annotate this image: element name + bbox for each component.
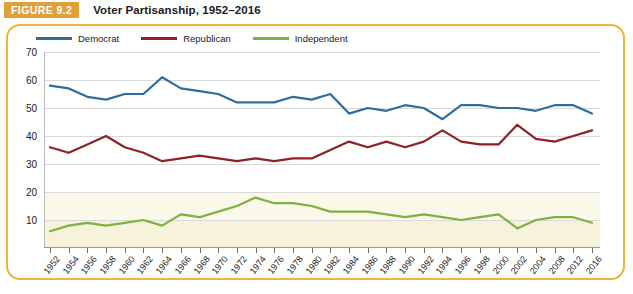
- x-tick-label: 1984: [341, 254, 361, 276]
- x-tick-label: 1996: [453, 254, 473, 276]
- x-tick: [480, 248, 481, 253]
- chart-legend: DemocratRepublicanIndependent: [36, 31, 370, 45]
- figure-number-badge: FIGURE 9.2: [4, 2, 79, 19]
- x-tick-label: 1962: [135, 254, 155, 276]
- legend-swatch-icon: [36, 37, 72, 40]
- x-tick: [218, 248, 219, 253]
- series-line-republican: [50, 125, 592, 161]
- legend-item-independent: Independent: [253, 33, 348, 44]
- x-tick: [592, 248, 593, 253]
- x-tick: [237, 248, 238, 253]
- x-tick-label: 1998: [472, 254, 492, 276]
- x-tick-label: 2000: [490, 254, 510, 276]
- x-tick: [162, 248, 163, 253]
- series-lines: [44, 52, 600, 248]
- x-tick: [424, 248, 425, 253]
- x-tick-label: 1958: [98, 254, 118, 276]
- x-tick-label: 1980: [303, 254, 323, 276]
- x-tick-label: 1964: [154, 254, 174, 276]
- y-tick-label: 60: [26, 75, 37, 86]
- x-tick-label: 2002: [509, 254, 529, 276]
- legend-item-republican: Republican: [141, 33, 231, 44]
- x-tick-label: 1986: [359, 254, 379, 276]
- x-tick-label: 1968: [191, 254, 211, 276]
- legend-label: Republican: [183, 33, 231, 44]
- x-tick: [293, 248, 294, 253]
- x-tick-label: 1994: [434, 254, 454, 276]
- x-tick: [143, 248, 144, 253]
- x-tick: [87, 248, 88, 253]
- chart-panel: DemocratRepublicanIndependent 7060504030…: [6, 24, 625, 280]
- x-tick: [125, 248, 126, 253]
- x-tick: [106, 248, 107, 253]
- x-tick: [368, 248, 369, 253]
- plot-area: [44, 52, 600, 248]
- x-tick-label: 1988: [378, 254, 398, 276]
- legend-label: Democrat: [78, 33, 119, 44]
- x-tick: [442, 248, 443, 253]
- legend-swatch-icon: [141, 37, 177, 40]
- x-tick-label: 1952: [42, 254, 62, 276]
- x-tick: [69, 248, 70, 253]
- x-tick: [499, 248, 500, 253]
- x-tick: [256, 248, 257, 253]
- y-axis-labels: 70605040302010: [8, 52, 42, 248]
- series-line-democrat: [50, 77, 592, 119]
- x-tick: [349, 248, 350, 253]
- x-tick-label: 1978: [285, 254, 305, 276]
- x-tick-label: 1960: [116, 254, 136, 276]
- x-tick-label: 1954: [60, 254, 80, 276]
- legend-label: Independent: [295, 33, 348, 44]
- x-tick-label: 1976: [266, 254, 286, 276]
- series-line-independent: [50, 198, 592, 232]
- y-tick-label: 10: [26, 215, 37, 226]
- x-tick-label: 2016: [584, 254, 604, 276]
- x-tick-label: 1992: [415, 254, 435, 276]
- x-tick-label: 2012: [565, 254, 585, 276]
- x-tick: [536, 248, 537, 253]
- x-tick: [330, 248, 331, 253]
- y-tick-label: 50: [26, 103, 37, 114]
- x-tick: [200, 248, 201, 253]
- x-tick: [386, 248, 387, 253]
- x-tick-label: 1974: [247, 254, 267, 276]
- y-tick-label: 70: [26, 47, 37, 58]
- x-tick: [312, 248, 313, 253]
- x-tick-label: 1970: [210, 254, 230, 276]
- x-tick: [461, 248, 462, 253]
- figure-container: FIGURE 9.2 Voter Partisanship, 1952–2016…: [0, 0, 633, 294]
- x-tick: [50, 248, 51, 253]
- x-tick-label: 2008: [546, 254, 566, 276]
- legend-item-democrat: Democrat: [36, 33, 119, 44]
- x-tick-label: 1972: [229, 254, 249, 276]
- x-tick: [573, 248, 574, 253]
- x-tick-label: 1966: [172, 254, 192, 276]
- legend-swatch-icon: [253, 37, 289, 40]
- y-tick-label: 20: [26, 187, 37, 198]
- y-tick-label: 30: [26, 159, 37, 170]
- x-tick-label: 2004: [528, 254, 548, 276]
- x-tick-label: 1982: [322, 254, 342, 276]
- figure-header: FIGURE 9.2 Voter Partisanship, 1952–2016: [0, 0, 633, 20]
- y-tick-label: 40: [26, 131, 37, 142]
- x-tick-label: 1956: [79, 254, 99, 276]
- figure-title: Voter Partisanship, 1952–2016: [93, 4, 261, 16]
- x-tick: [405, 248, 406, 253]
- x-tick: [181, 248, 182, 253]
- x-tick-label: 1990: [397, 254, 417, 276]
- x-tick: [555, 248, 556, 253]
- x-tick: [274, 248, 275, 253]
- x-axis-labels: 1952195419561958196019621964196619681970…: [44, 254, 600, 280]
- x-tick: [517, 248, 518, 253]
